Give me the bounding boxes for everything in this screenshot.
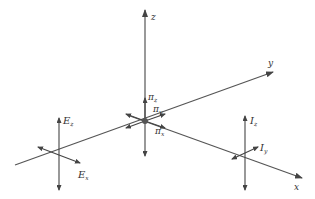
e-x-label: Ex [77,169,89,181]
y-axis-label: y [267,58,274,68]
diagram-canvas: z y x πz πy πx Ez Ex Iz [0,0,315,199]
i-z-label: Iz [249,115,258,127]
pi-z-label: πz [147,92,158,103]
x-axis-label: x [294,182,299,192]
e-z-label: Ez [62,115,74,127]
z-axis-label: z [150,12,156,22]
right-frame [232,116,258,190]
i-y-label: Iy [259,142,268,155]
origin-point [142,118,148,124]
